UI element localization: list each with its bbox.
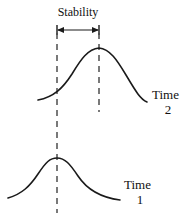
stability-arrow-head-left: [57, 27, 64, 33]
stability-shift-figure: Stability Time 2 Time 1: [0, 0, 194, 221]
time2-series-label: Time 2: [152, 88, 194, 116]
stability-arrow-head-right: [92, 27, 99, 33]
time1-label-index: 1: [124, 193, 156, 207]
stability-label: Stability: [0, 6, 156, 19]
time1-label-text: Time: [124, 177, 151, 192]
time2-curve: [38, 48, 147, 102]
time1-curve: [8, 158, 120, 200]
time2-label-text: Time: [152, 87, 179, 102]
time1-series-label: Time 1: [124, 178, 170, 206]
time2-label-index: 2: [152, 103, 184, 117]
stability-measure-arrow: [57, 25, 99, 35]
